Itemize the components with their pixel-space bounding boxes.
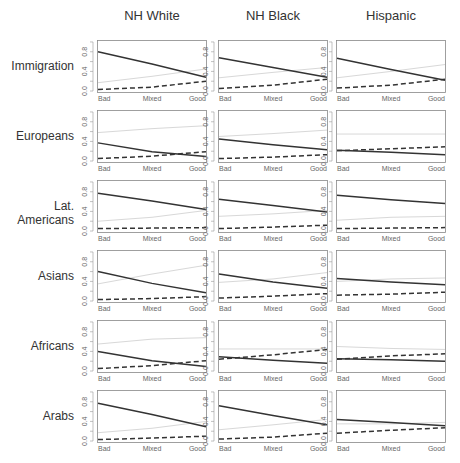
gray-series-line: [98, 69, 206, 83]
solid-series-line: [337, 195, 445, 203]
y-tick-label: 0.8: [202, 327, 209, 337]
x-tick-label: Bad: [219, 375, 232, 382]
line-panel: 0.00.40.8BadMixedGood: [218, 320, 328, 373]
y-tick-label: 0.4: [81, 276, 88, 286]
y-tick-label: 0.8: [320, 47, 327, 57]
x-tick-label: Mixed: [382, 375, 401, 382]
x-tick-label: Mixed: [382, 165, 401, 172]
dashed-series-line: [337, 428, 445, 433]
x-tick-label: Bad: [219, 445, 232, 452]
y-tick-label: 0.4: [320, 276, 327, 286]
solid-series-line: [98, 351, 206, 366]
line-panel: 0.00.40.8BadMixedGood: [97, 250, 207, 303]
y-tick-label: 0.4: [320, 416, 327, 426]
solid-series-line: [98, 403, 206, 427]
solid-series-line: [337, 359, 445, 361]
x-tick-label: Mixed: [382, 445, 401, 452]
y-tick-label: 0.0: [202, 226, 209, 236]
x-tick-label: Mixed: [143, 95, 162, 102]
y-tick-label: 0.8: [320, 327, 327, 337]
y-tick-label: 0.8: [320, 257, 327, 267]
x-tick-label: Bad: [98, 235, 111, 242]
y-tick-label: 0.8: [202, 397, 209, 407]
x-tick-label: Bad: [98, 165, 111, 172]
y-tick-label: 0.4: [320, 206, 327, 216]
x-tick-label: Mixed: [143, 375, 162, 382]
y-tick-label: 0.0: [81, 86, 88, 96]
line-panel: 0.00.40.8BadMixedGood: [97, 40, 207, 93]
y-tick-label: 0.4: [81, 66, 88, 76]
dashed-series-line: [219, 294, 327, 298]
gray-series-line: [219, 130, 327, 136]
gray-series-line: [219, 210, 327, 216]
solid-series-line: [219, 139, 327, 150]
x-tick-label: Bad: [337, 235, 350, 242]
y-tick-label: 0.8: [202, 117, 209, 127]
panel-frame: [337, 391, 446, 443]
y-tick-label: 0.8: [320, 117, 327, 127]
dashed-series-line: [337, 292, 445, 295]
y-tick-label: 0.0: [202, 366, 209, 376]
dashed-series-line: [337, 228, 445, 229]
x-tick-label: Bad: [219, 305, 232, 312]
y-tick-label: 0.8: [81, 117, 88, 127]
row-label: Arabs: [0, 409, 74, 423]
line-panel: 0.00.40.8BadMixedGood: [218, 110, 328, 163]
y-tick-label: 0.0: [320, 296, 327, 306]
y-tick-label: 0.0: [320, 86, 327, 96]
line-panel: 0.00.40.8BadMixedGood: [336, 40, 446, 93]
line-panel: 0.00.40.8BadMixedGood: [336, 110, 446, 163]
line-panel: 0.00.40.8BadMixedGood: [336, 180, 446, 233]
y-tick-label: 0.4: [81, 136, 88, 146]
y-tick-label: 0.4: [202, 136, 209, 146]
y-tick-label: 0.8: [320, 187, 327, 197]
y-tick-label: 0.8: [202, 47, 209, 57]
y-tick-label: 0.4: [202, 276, 209, 286]
line-panel: 0.00.40.8BadMixedGood: [218, 250, 328, 303]
y-tick-label: 0.4: [320, 66, 327, 76]
panel-frame: [337, 111, 446, 163]
x-tick-label: Good: [428, 445, 445, 452]
solid-series-line: [219, 406, 327, 425]
x-tick-label: Bad: [219, 235, 232, 242]
column-title: NH Black: [218, 8, 328, 23]
dashed-series-line: [219, 79, 327, 88]
x-tick-label: Bad: [219, 165, 232, 172]
gray-series-line: [98, 338, 206, 344]
y-tick-label: 0.4: [81, 206, 88, 216]
x-tick-label: Mixed: [143, 445, 162, 452]
y-tick-label: 0.8: [81, 327, 88, 337]
y-tick-label: 0.4: [81, 416, 88, 426]
line-panel: 0.00.40.8BadMixedGood: [97, 180, 207, 233]
panel-frame: [98, 391, 207, 443]
x-tick-label: Bad: [337, 305, 350, 312]
line-panel: 0.00.40.8BadMixedGood: [218, 390, 328, 443]
x-tick-label: Good: [428, 165, 445, 172]
y-tick-label: 0.0: [202, 86, 209, 96]
x-tick-label: Bad: [98, 95, 111, 102]
y-tick-label: 0.0: [320, 156, 327, 166]
row-label: Europeans: [0, 129, 74, 143]
solid-series-line: [98, 193, 206, 209]
y-tick-label: 0.0: [320, 226, 327, 236]
column-title: NH White: [97, 8, 207, 23]
dashed-series-line: [98, 297, 206, 300]
dashed-series-line: [219, 225, 327, 228]
panel-frame: [98, 251, 207, 303]
panel-frame: [98, 41, 207, 93]
dashed-series-line: [98, 81, 206, 89]
y-tick-label: 0.8: [320, 397, 327, 407]
y-tick-label: 0.4: [320, 136, 327, 146]
y-tick-label: 0.4: [202, 416, 209, 426]
gray-series-line: [98, 210, 206, 221]
panel-frame: [337, 251, 446, 303]
solid-series-line: [98, 143, 206, 157]
y-tick-label: 0.0: [81, 226, 88, 236]
line-panel: 0.00.40.8BadMixedGood: [218, 40, 328, 93]
y-tick-label: 0.4: [320, 346, 327, 356]
gray-series-line: [337, 347, 445, 350]
dashed-series-line: [98, 436, 206, 439]
x-tick-label: Bad: [98, 305, 111, 312]
y-tick-label: 0.8: [202, 257, 209, 267]
y-tick-label: 0.0: [202, 296, 209, 306]
